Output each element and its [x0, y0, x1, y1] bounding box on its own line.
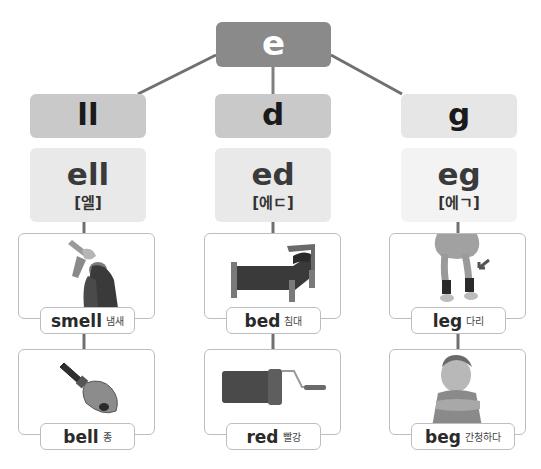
word-korean: 냄새	[106, 313, 124, 328]
bed-image	[205, 238, 340, 306]
rime-pronunciation: [에ㄷ]	[252, 193, 294, 213]
rime-word: ell	[67, 157, 109, 191]
legs-with-arrow-image	[390, 234, 525, 306]
suffix-label: d	[262, 99, 284, 130]
rime-box-eg: eg [에ㄱ]	[401, 148, 517, 222]
word-english: leg	[433, 311, 463, 331]
root-letter-box: e	[216, 22, 331, 67]
child-begging-image	[390, 354, 525, 426]
word-label-leg: leg 다리	[411, 307, 506, 334]
word-label-red: red 빨강	[226, 423, 321, 450]
suffix-label: g	[448, 99, 470, 130]
word-english: beg	[425, 427, 461, 447]
word-english: bed	[245, 311, 281, 331]
word-label-smell: smell 냄새	[40, 307, 135, 334]
root-letter: e	[262, 26, 285, 60]
rime-word: ed	[251, 157, 294, 191]
word-korean: 빨강	[283, 429, 301, 444]
word-korean: 종	[103, 429, 112, 444]
woman-smelling-flowers-image	[19, 238, 154, 306]
suffix-box-g: g	[401, 94, 517, 138]
rime-pronunciation: [엘]	[74, 193, 102, 213]
suffix-box-ll: ll	[30, 94, 146, 138]
word-korean: 다리	[466, 313, 484, 328]
word-label-bed: bed 침대	[226, 307, 321, 334]
suffix-label: ll	[77, 99, 98, 130]
word-english: bell	[63, 427, 98, 447]
word-korean: 침대	[284, 313, 302, 328]
word-korean: 간청하다	[465, 429, 501, 444]
rime-box-ed: ed [에ㄷ]	[215, 148, 331, 222]
hand-bell-image	[19, 354, 154, 422]
suffix-box-d: d	[215, 94, 331, 138]
rime-pronunciation: [에ㄱ]	[438, 193, 480, 213]
rime-box-ell: ell [엘]	[30, 148, 146, 222]
arrow-icon	[479, 260, 489, 268]
rime-word: eg	[437, 157, 480, 191]
red-paint-roller-image	[205, 354, 340, 422]
word-label-beg: beg 간청하다	[411, 423, 515, 450]
word-english: smell	[51, 311, 102, 331]
word-english: red	[246, 427, 278, 447]
word-label-bell: bell 종	[40, 423, 135, 450]
